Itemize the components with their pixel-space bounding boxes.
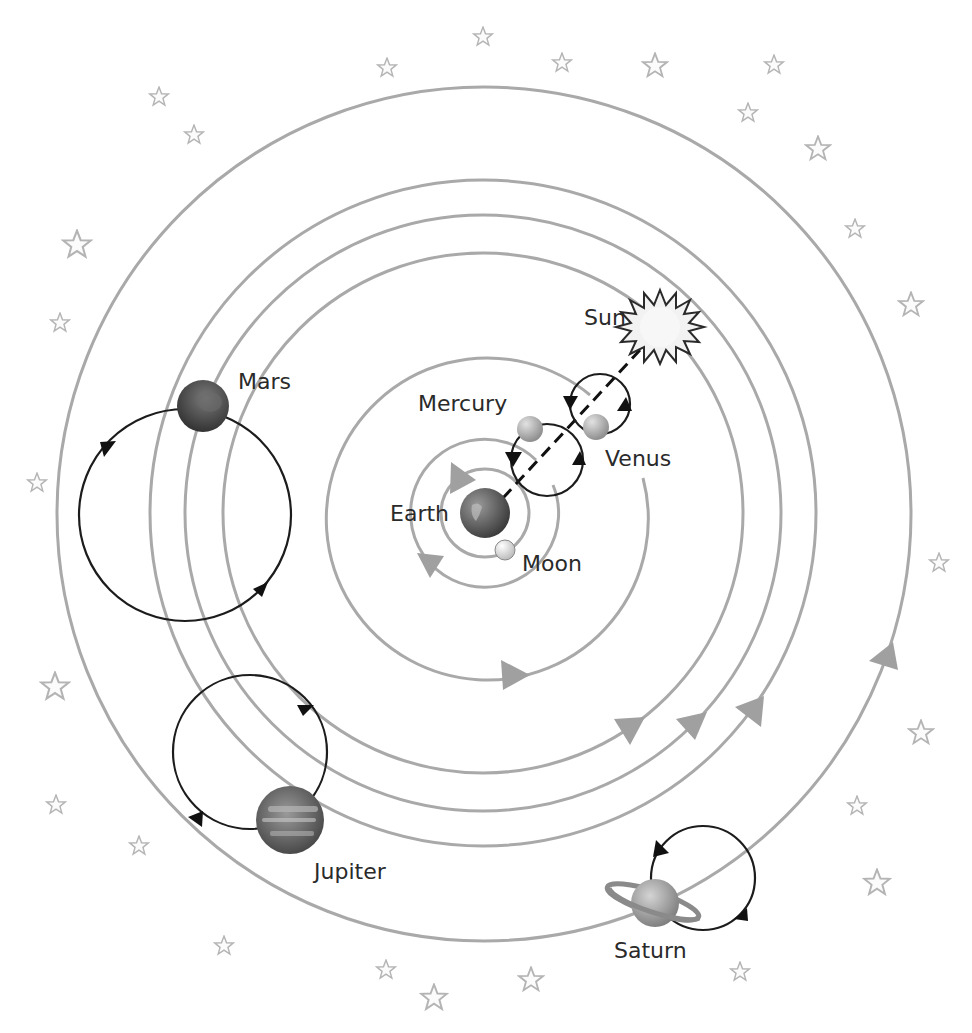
star-icon [63, 231, 91, 257]
star-icon [150, 87, 169, 105]
star-icon [377, 960, 396, 978]
star-icon [215, 936, 234, 954]
star-icon [41, 673, 69, 699]
star-icon [474, 27, 493, 45]
earth [460, 488, 510, 538]
arrow-icon [505, 452, 522, 467]
label-sun: Sun [584, 305, 626, 330]
arrow-icon [417, 553, 444, 578]
star-icon [739, 103, 758, 121]
star-icon [378, 58, 397, 76]
venus-icon [583, 414, 609, 440]
label-mars: Mars [238, 369, 291, 394]
arrow-icon [653, 840, 669, 857]
star-icon [765, 55, 784, 73]
star-icon [421, 985, 447, 1009]
star-icon [864, 870, 890, 894]
star-icon [731, 962, 750, 980]
arrow-icon [614, 717, 645, 745]
earth-icon [460, 488, 510, 538]
mars [177, 380, 229, 432]
label-mercury: Mercury [418, 391, 507, 416]
star-icon [848, 796, 867, 814]
geocentric-diagram: Sun Mercury Venus Earth Moon Mars Jupite… [0, 0, 972, 1033]
star-icon [643, 53, 667, 76]
arrow-icon [450, 462, 476, 494]
star-icon [130, 836, 149, 854]
star-icon [930, 553, 949, 571]
arrow-icon [563, 396, 578, 410]
arrow-icon [297, 705, 314, 716]
star-icon [553, 53, 572, 71]
star-icon [185, 125, 204, 143]
arrow-icon [501, 660, 530, 690]
star-icon [51, 313, 70, 331]
label-moon: Moon [522, 551, 582, 576]
arrow-icon [735, 696, 764, 727]
label-venus: Venus [605, 446, 671, 471]
star-icon [899, 292, 923, 315]
star-icon [28, 473, 47, 491]
jupiter [256, 786, 324, 854]
star-icon [909, 720, 933, 743]
mercury-icon [517, 416, 543, 442]
star-icon [47, 795, 66, 813]
arrow-icon [734, 908, 748, 921]
moon-icon [495, 540, 515, 560]
arrow-icon [100, 441, 116, 457]
label-jupiter: Jupiter [312, 859, 387, 884]
star-icon [806, 136, 830, 159]
star-icon [846, 219, 865, 237]
label-saturn: Saturn [614, 938, 687, 963]
star-icon [519, 967, 543, 990]
label-earth: Earth [390, 501, 449, 526]
